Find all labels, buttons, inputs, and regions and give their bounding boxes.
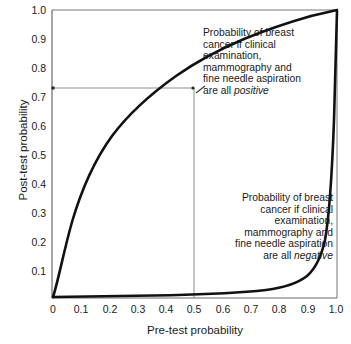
annotation-negative-line-6-prefix: are all bbox=[263, 250, 294, 261]
annotation-positive-emphasis: positive bbox=[234, 85, 269, 96]
x-tick-0: 0 bbox=[40, 303, 66, 315]
x-tick-1-0: 1.0 bbox=[323, 303, 349, 315]
annotation-negative-line-1: Probability of breast bbox=[200, 192, 333, 204]
annotation-positive-line-4: mammography and bbox=[203, 62, 333, 74]
x-tick-0-4: 0.4 bbox=[153, 303, 179, 315]
y-tick-0-2: 0.2 bbox=[20, 236, 46, 248]
annotation-positive: Probability of breast cancer if clinical… bbox=[203, 27, 333, 97]
annotation-negative-line-6: are all negative bbox=[200, 250, 333, 262]
x-axis-label: Pre-test probability bbox=[52, 324, 338, 336]
y-tick-0-1: 0.1 bbox=[20, 265, 46, 277]
y-tick-0-9: 0.9 bbox=[20, 33, 46, 45]
annotation-positive-line-6: are all positive bbox=[203, 85, 333, 97]
annotation-negative-line-4: mammography and bbox=[200, 227, 333, 239]
annotation-positive-line-5: fine needle aspiration bbox=[203, 73, 333, 85]
reference-endpoint-marker bbox=[51, 86, 54, 89]
x-tick-0-7: 0.7 bbox=[238, 303, 264, 315]
annotation-positive-line-6-prefix: are all bbox=[203, 85, 234, 96]
x-tick-0-8: 0.8 bbox=[266, 303, 292, 315]
annotation-negative-line-3: examination, bbox=[200, 215, 333, 227]
reference-lines bbox=[51, 86, 194, 298]
annotation-negative-line-2: cancer if clinical bbox=[200, 204, 333, 216]
annotation-negative-line-5: fine needle aspiration bbox=[200, 238, 333, 250]
y-axis-label: Post-test probability bbox=[17, 75, 29, 225]
annotation-negative-emphasis: negative bbox=[294, 250, 333, 261]
annotation-positive-line-2: cancer if clinical bbox=[203, 39, 333, 51]
x-tick-0-9: 0.9 bbox=[295, 303, 321, 315]
x-tick-0-2: 0.2 bbox=[97, 303, 123, 315]
y-tick-0-8: 0.8 bbox=[20, 62, 46, 74]
curve-all-tests-positive-tail bbox=[311, 10, 337, 16]
reference-intersection-marker bbox=[191, 86, 194, 89]
bayes-nomogram-figure: 1.0 0.9 0.8 0.7 0.6 0.5 0.4 0.3 0.2 0.1 … bbox=[0, 0, 351, 344]
annotation-positive-line-1: Probability of breast bbox=[203, 27, 333, 39]
x-tick-0-5: 0.5 bbox=[181, 303, 207, 315]
y-tick-1-0: 1.0 bbox=[20, 4, 46, 16]
annotation-negative: Probability of breast cancer if clinical… bbox=[200, 192, 333, 262]
x-tick-0-6: 0.6 bbox=[210, 303, 236, 315]
annotation-positive-line-3: examination, bbox=[203, 50, 333, 62]
x-tick-0-3: 0.3 bbox=[125, 303, 151, 315]
x-tick-0-1: 0.1 bbox=[68, 303, 94, 315]
